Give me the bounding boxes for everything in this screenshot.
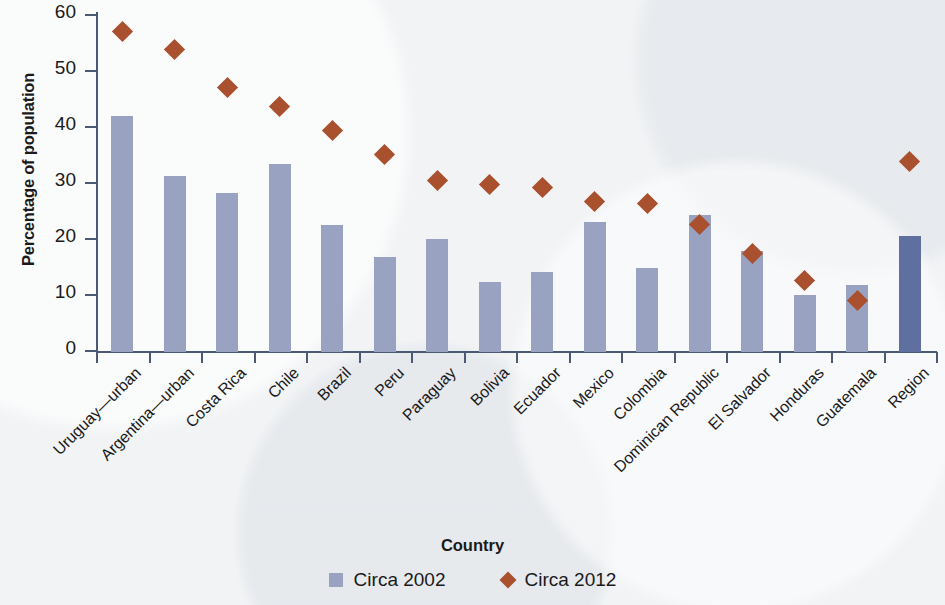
bar: [636, 268, 658, 352]
diamond-marker: [374, 144, 395, 165]
chart-category-group: [411, 16, 464, 352]
y-axis-tick-label: 30: [55, 170, 76, 190]
legend-label: Circa 2002: [354, 570, 446, 590]
x-axis-tick: [306, 352, 308, 363]
chart-category-group: [359, 16, 412, 352]
y-axis-tick-label: 50: [55, 58, 76, 78]
legend-item-circa-2012: Circa 2012: [502, 570, 617, 590]
square-swatch-icon: [329, 573, 343, 587]
diamond-marker: [899, 150, 920, 171]
x-axis-tick: [96, 352, 98, 363]
bar: [689, 215, 711, 352]
bar: [479, 282, 501, 352]
x-axis-tick: [831, 352, 833, 363]
chart-figure: Percentage of population 0102030405060 U…: [0, 0, 945, 605]
y-axis-title: Percentage of population: [19, 10, 38, 330]
chart-category-group: [96, 16, 149, 352]
x-axis-category-label: Ecuador: [511, 364, 565, 418]
x-axis-tick: [516, 352, 518, 363]
chart-category-group: [306, 16, 359, 352]
y-axis-tick-label: 20: [55, 226, 76, 246]
diamond-marker: [479, 173, 500, 194]
x-axis-tick: [254, 352, 256, 363]
y-axis-tick-label: 0: [65, 338, 76, 358]
chart-category-group: [831, 16, 884, 352]
x-axis-tick: [936, 352, 938, 363]
x-axis-tick: [201, 352, 203, 363]
bar: [531, 272, 553, 352]
y-axis-tick-label: 60: [55, 2, 76, 22]
chart-category-group: [464, 16, 517, 352]
diamond-swatch-icon: [499, 572, 516, 589]
bar: [374, 257, 396, 352]
x-axis-tick: [884, 352, 886, 363]
diamond-marker: [112, 21, 133, 42]
x-axis-tick: [621, 352, 623, 363]
chart-category-group: [726, 16, 779, 352]
diamond-marker: [794, 270, 815, 291]
x-axis-category-label: Paraguay: [399, 364, 459, 424]
bar: [216, 193, 238, 352]
bar: [426, 239, 448, 352]
bar: [111, 116, 133, 352]
diamond-marker: [269, 96, 290, 117]
bar: [164, 176, 186, 352]
diamond-marker: [164, 39, 185, 60]
bar: [899, 236, 921, 352]
chart-category-group: [569, 16, 622, 352]
x-axis-tick: [411, 352, 413, 363]
diamond-marker: [322, 120, 343, 141]
bar: [269, 164, 291, 352]
x-axis-title: Country: [0, 536, 945, 555]
bar: [321, 225, 343, 352]
x-axis-tick: [149, 352, 151, 363]
legend-label: Circa 2012: [525, 570, 617, 590]
x-axis-tick: [674, 352, 676, 363]
x-axis-category-label: Region: [884, 364, 931, 411]
plot-area: 0102030405060 Uruguay—urbanArgentina—urb…: [96, 16, 936, 352]
chart-category-group: [516, 16, 569, 352]
x-axis-category-label: Uruguay—urban: [50, 364, 144, 458]
y-axis-tick-label: 40: [55, 114, 76, 134]
x-axis-category-label: Peru: [371, 364, 407, 400]
chart-category-group: [254, 16, 307, 352]
x-axis-tick: [569, 352, 571, 363]
x-axis-category-label: Chile: [264, 364, 301, 401]
x-axis-category-label: Mexico: [569, 364, 616, 411]
x-axis-category-label: Bolivia: [467, 364, 512, 409]
y-axis-tick-label: 10: [55, 282, 76, 302]
chart-category-group: [674, 16, 727, 352]
chart-category-group: [621, 16, 674, 352]
bar: [741, 251, 763, 352]
x-axis-category-label: Argentina—urban: [97, 364, 197, 464]
x-axis-tick: [726, 352, 728, 363]
x-axis-tick: [359, 352, 361, 363]
diamond-marker: [584, 191, 605, 212]
chart-legend: Circa 2002 Circa 2012: [0, 570, 945, 590]
bar: [584, 222, 606, 352]
diamond-marker: [217, 77, 238, 98]
chart-category-group: [201, 16, 254, 352]
x-axis-tick: [779, 352, 781, 363]
diamond-marker: [637, 192, 658, 213]
chart-category-group: [884, 16, 937, 352]
diamond-marker: [532, 177, 553, 198]
chart-category-group: [779, 16, 832, 352]
diamond-marker: [427, 170, 448, 191]
chart-category-group: [149, 16, 202, 352]
bar: [794, 295, 816, 352]
legend-item-circa-2002: Circa 2002: [329, 570, 446, 590]
x-axis-tick: [464, 352, 466, 363]
x-axis-category-label: Brazil: [314, 364, 354, 404]
